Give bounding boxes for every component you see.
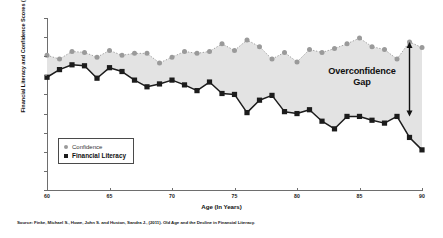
data-point	[207, 79, 212, 84]
x-tick-mark	[235, 188, 236, 191]
data-point	[107, 65, 112, 70]
legend-item-confidence: Confidence	[64, 142, 126, 151]
data-point	[82, 63, 87, 68]
x-tick-label: 70	[169, 193, 175, 199]
data-point	[232, 92, 237, 97]
data-point	[70, 49, 75, 54]
data-point	[207, 49, 212, 54]
data-point	[319, 119, 324, 124]
x-axis-title: Age (In Years)	[0, 203, 443, 210]
data-point	[257, 98, 262, 103]
data-point	[182, 82, 187, 87]
data-point	[269, 93, 274, 98]
data-point	[195, 51, 200, 56]
data-point	[69, 62, 74, 67]
annotation-line-2: Gap	[316, 77, 408, 88]
y-tick-mark	[44, 94, 47, 95]
data-point	[332, 46, 337, 51]
data-point	[270, 57, 275, 62]
data-point	[357, 36, 362, 41]
data-point	[282, 50, 287, 55]
data-point	[157, 60, 162, 65]
data-point	[132, 78, 137, 83]
x-tick-mark	[297, 188, 298, 191]
y-tick-mark	[44, 133, 47, 134]
data-point	[94, 76, 99, 81]
x-tick-mark	[47, 188, 48, 191]
x-tick-mark	[172, 188, 173, 191]
data-point	[369, 118, 374, 123]
data-point	[219, 91, 224, 96]
x-tick-label: 60	[44, 193, 50, 199]
data-point	[120, 53, 125, 58]
data-point	[307, 47, 312, 52]
source-citation: Source: Finke, Michael S., Howe, John S.…	[17, 220, 255, 225]
annotation-line-1: Overconfidence	[316, 66, 408, 77]
data-point	[157, 81, 162, 86]
data-point	[370, 44, 375, 49]
x-tick-label: 85	[357, 193, 363, 199]
data-point	[57, 67, 62, 72]
square-marker-icon	[64, 154, 68, 158]
data-point	[320, 50, 325, 55]
x-tick-label: 75	[232, 193, 238, 199]
data-point	[345, 41, 350, 46]
x-tick-mark	[422, 188, 423, 191]
x-tick-label: 80	[294, 193, 300, 199]
data-point	[332, 126, 337, 131]
y-tick-mark	[44, 171, 47, 172]
y-tick-mark	[44, 152, 47, 153]
data-point	[220, 41, 225, 46]
data-point	[232, 48, 237, 53]
chart-figure: Financial Literacy and Confidence Scores…	[0, 0, 443, 238]
data-point	[307, 107, 312, 112]
chart-legend: Confidence Financial Literacy	[58, 138, 134, 164]
data-point	[194, 88, 199, 93]
data-point	[294, 111, 299, 116]
data-point	[357, 114, 362, 119]
data-point	[119, 69, 124, 74]
x-tick-mark	[110, 188, 111, 191]
data-point	[344, 114, 349, 119]
data-point	[82, 50, 87, 55]
x-tick-label: 65	[107, 193, 113, 199]
circle-marker-icon	[64, 145, 68, 149]
data-point	[244, 110, 249, 115]
y-tick-mark	[44, 37, 47, 38]
data-point	[382, 47, 387, 52]
y-axis-title: Financial Literacy and Confidence Scores…	[20, 0, 26, 138]
data-point	[419, 147, 424, 152]
data-point	[395, 57, 400, 62]
y-tick-mark	[44, 75, 47, 76]
legend-label-confidence: Confidence	[72, 144, 102, 150]
y-tick-mark	[44, 114, 47, 115]
data-point	[170, 55, 175, 60]
y-tick-mark	[44, 18, 47, 19]
data-point	[407, 135, 412, 140]
overconfidence-gap-annotation: Overconfidence Gap	[316, 66, 408, 87]
data-point	[295, 59, 300, 64]
data-point	[95, 55, 100, 60]
y-tick-mark	[44, 56, 47, 57]
data-point	[107, 48, 112, 53]
data-point	[144, 84, 149, 89]
data-point	[394, 114, 399, 119]
data-point	[382, 121, 387, 126]
data-point	[282, 109, 287, 114]
data-point	[245, 37, 250, 42]
data-point	[145, 51, 150, 56]
legend-item-financial-literacy: Financial Literacy	[64, 151, 126, 160]
data-point	[182, 49, 187, 54]
legend-label-financial-literacy: Financial Literacy	[72, 152, 126, 159]
data-point	[169, 78, 174, 83]
data-point	[257, 44, 262, 49]
data-point	[420, 45, 425, 50]
x-tick-label: 90	[419, 193, 425, 199]
data-point	[57, 57, 62, 62]
data-point	[132, 51, 137, 56]
x-tick-mark	[360, 188, 361, 191]
series-canvas	[47, 18, 422, 190]
